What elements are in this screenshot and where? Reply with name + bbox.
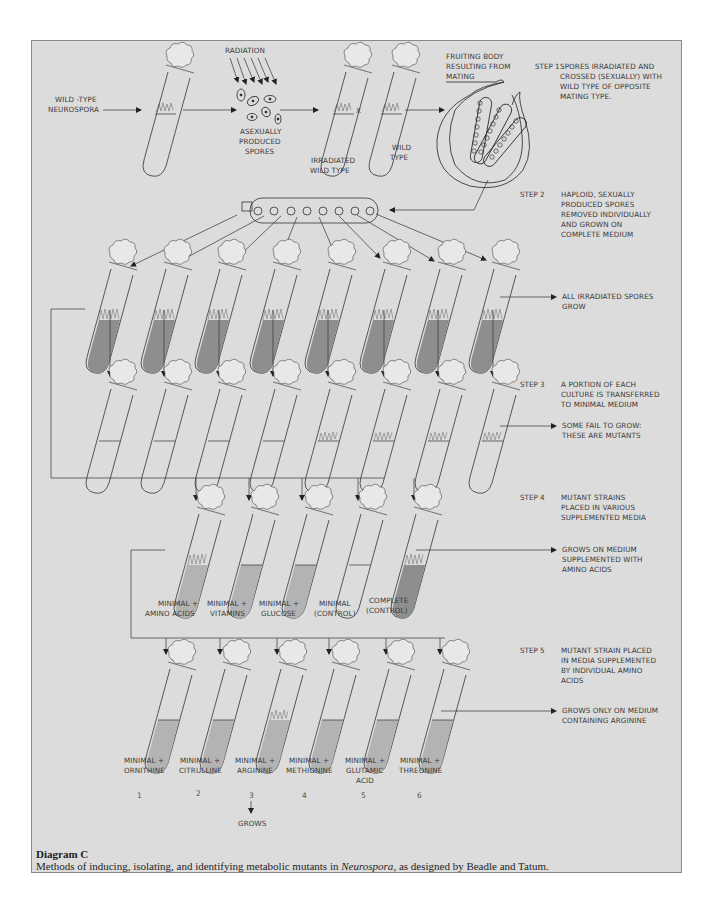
media-5-6-line1: MINIMAL + bbox=[400, 756, 440, 765]
media-5-3-line1: MINIMAL + bbox=[235, 756, 275, 765]
step-5-block: STEP 5 MUTANT STRAIN PLACED IN MEDIA SUP… bbox=[441, 646, 658, 725]
step-3-result-2: THESE ARE MUTANTS bbox=[561, 431, 641, 440]
step-4-desc-3: SUPPLEMENTED MEDIA bbox=[561, 513, 646, 522]
step-1-label: STEP 1 bbox=[535, 62, 560, 71]
step-2-label: STEP 2 bbox=[520, 190, 545, 199]
step-1-desc-4: MATING TYPE. bbox=[560, 92, 611, 101]
media-4-5-line2: (CONTROL) bbox=[366, 606, 408, 615]
irradiated-label-2: WILD TYPE bbox=[310, 166, 350, 175]
step-5-result-2: CONTAINING ARGININE bbox=[562, 716, 647, 725]
step-5-desc-3: BY INDIVIDUAL AMINO bbox=[561, 666, 643, 675]
step-5-tubes bbox=[145, 639, 470, 773]
radiation-arrows bbox=[230, 58, 276, 84]
step-1-desc-2: CROSSED (SEXUALLY) WITH bbox=[560, 72, 662, 81]
fruiting-body-icon bbox=[437, 80, 530, 188]
figure-caption: Diagram C Methods of inducing, isolating… bbox=[36, 848, 676, 873]
step-5-result-1: GROWS ONLY ON MEDIUM bbox=[562, 706, 658, 715]
media-4-1-line2: AMINO ACIDS bbox=[145, 609, 195, 618]
step-5-desc-2: IN MEDIA SUPPLEMENTED bbox=[561, 656, 656, 665]
step-1-desc-1: SPORES IRRADIATED AND bbox=[560, 62, 655, 71]
wild-type-label-2: NEUROSPORA bbox=[48, 105, 99, 114]
grows-label: GROWS bbox=[238, 819, 267, 828]
tube-number-6: 6 bbox=[417, 791, 422, 800]
wild-type-tube bbox=[143, 42, 194, 176]
step-4-result-2: SUPPLEMENTED WITH bbox=[562, 555, 643, 564]
spores-label-3: SPORES bbox=[245, 147, 275, 156]
caption-text-after: , as designed by Beadle and Tatum. bbox=[393, 860, 548, 872]
step-3-block: STEP 3 A PORTION OF EACH CULTURE IS TRAN… bbox=[500, 380, 660, 440]
media-5-3-line2: ARGININE bbox=[237, 766, 273, 775]
fruiting-body-label-1: FRUITING BODY bbox=[446, 52, 504, 61]
step-5-media-labels: MINIMAL + ORNITHINE MINIMAL + CITRULLINE… bbox=[124, 756, 443, 828]
step-1-desc-3: WILD TYPE OF OPPOSITE bbox=[560, 82, 651, 91]
step-2-desc-4: AND GROWN ON bbox=[561, 220, 622, 229]
media-4-4-line2: (CONTROL) bbox=[314, 609, 356, 618]
step-5-desc-1: MUTANT STRAIN PLACED bbox=[561, 646, 652, 655]
top-row: WILD -TYPE NEUROSPORA RADIATION bbox=[48, 42, 530, 187]
step-2-block: STEP 2 HAPLOID, SEXUALLY PRODUCED SPORES… bbox=[500, 190, 654, 311]
media-4-5-line1: COMPLETE bbox=[369, 596, 409, 605]
step-3-desc-2: CULTURE IS TRANSFERRED bbox=[561, 390, 660, 399]
step-2-desc-1: HAPLOID, SEXUALLY bbox=[561, 190, 635, 199]
caption-title: Diagram C bbox=[36, 848, 676, 860]
irradiated-label-1: IRRADIATED bbox=[311, 156, 356, 165]
media-5-4-line1: MINIMAL + bbox=[289, 756, 329, 765]
media-5-1-line2: ORNITHINE bbox=[124, 766, 165, 775]
wild-type-label-1: WILD -TYPE bbox=[55, 95, 97, 104]
step-3-tubes bbox=[86, 359, 520, 493]
step-4-desc-1: MUTANT STRAINS bbox=[561, 493, 626, 502]
step-3-desc-3: TO MINIMAL MEDIUM bbox=[560, 400, 638, 409]
media-5-5-line2: GLUTAMIC bbox=[346, 766, 383, 775]
media-4-2-line1: MINIMAL + bbox=[207, 599, 247, 608]
step-4-desc-2: PLACED IN VARIOUS bbox=[561, 503, 635, 512]
media-5-5-line1: MINIMAL + bbox=[345, 756, 385, 765]
cross-symbol: X bbox=[356, 106, 361, 115]
media-4-4-line1: MINIMAL bbox=[319, 599, 351, 608]
fruiting-body-label-3: MATING bbox=[446, 72, 475, 81]
step-4-result-3: AMINO ACIDS bbox=[562, 565, 612, 574]
neurospora-diagram: WILD -TYPE NEUROSPORA RADIATION bbox=[0, 0, 711, 898]
media-5-2-line1: MINIMAL + bbox=[180, 756, 220, 765]
step-2-desc-2: PRODUCED SPORES bbox=[561, 200, 635, 209]
fruiting-body-label-2: RESULTING FROM bbox=[446, 62, 511, 71]
step-5-desc-4: ACIDS bbox=[561, 676, 584, 685]
tube-number-1: 1 bbox=[137, 791, 142, 800]
step-2-result-2: GROW bbox=[562, 302, 586, 311]
radiation-label: RADIATION bbox=[225, 46, 265, 55]
media-4-3-line1: MINIMAL + bbox=[259, 599, 299, 608]
media-5-4-line2: METHIONINE bbox=[286, 766, 333, 775]
media-4-1-line1: MINIMAL + bbox=[158, 599, 198, 608]
step-2-result-1: ALL IRRADIATED SPORES bbox=[562, 292, 654, 301]
step-2-desc-5: COMPLETE MEDIUM bbox=[561, 230, 633, 239]
step-4-media-labels: MINIMAL + AMINO ACIDS MINIMAL + VITAMINS… bbox=[145, 596, 409, 618]
media-4-2-line2: VITAMINS bbox=[210, 609, 245, 618]
spores-label-1: ASEXUALLY bbox=[240, 127, 282, 136]
step-3-label: STEP 3 bbox=[520, 380, 545, 389]
spores-icon bbox=[237, 89, 281, 124]
step-5-label: STEP 5 bbox=[520, 646, 545, 655]
step-3-desc-1: A PORTION OF EACH bbox=[561, 380, 636, 389]
tube-number-3: 3 bbox=[249, 791, 254, 800]
step-2-tubes bbox=[86, 239, 520, 373]
media-4-3-line2: GLUCOSE bbox=[261, 609, 296, 618]
wild-label-2: TYPE bbox=[389, 153, 408, 162]
step-4-block: STEP 4 MUTANT STRAINS PLACED IN VARIOUS … bbox=[416, 493, 646, 574]
tube-number-4: 4 bbox=[302, 791, 307, 800]
tube-number-2: 2 bbox=[196, 789, 201, 798]
tube-number-5: 5 bbox=[361, 791, 366, 800]
caption-text: Methods of inducing, isolating, and iden… bbox=[36, 860, 676, 873]
caption-text-before: Methods of inducing, isolating, and iden… bbox=[36, 860, 341, 872]
media-5-2-line2: CITRULLINE bbox=[179, 766, 222, 775]
media-5-5-line3: ACID bbox=[356, 776, 374, 785]
step-3-result-1: SOME FAIL TO GROW: bbox=[562, 421, 642, 430]
step-4-label: STEP 4 bbox=[520, 493, 545, 502]
caption-italic-genus: Neurospora bbox=[341, 860, 393, 872]
spores-label-2: PRODUCED bbox=[239, 137, 281, 146]
media-5-6-line2: THREONINE bbox=[398, 766, 443, 775]
media-5-1-line1: MINIMAL + bbox=[124, 756, 164, 765]
wild-label-1: WILD bbox=[392, 143, 412, 152]
step-4-result-1: GROWS ON MEDIUM bbox=[562, 545, 637, 554]
step-1-block: STEP 1 SPORES IRRADIATED AND CROSSED (SE… bbox=[535, 62, 662, 101]
step-2-desc-3: REMOVED INDIVIDUALLY bbox=[561, 210, 651, 219]
